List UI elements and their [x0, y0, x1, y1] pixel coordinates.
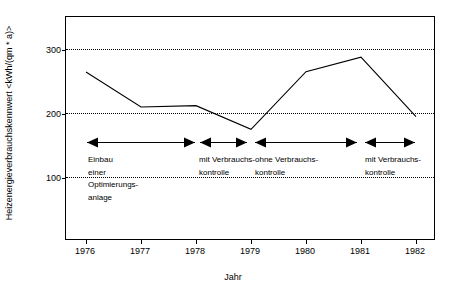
phase-4-label-line-2: kontrolle — [365, 167, 421, 180]
phase-4-label-line-1: mit Verbrauchs- — [365, 154, 421, 167]
y-tick-label-300: 300 — [46, 45, 61, 55]
phase-4-label: mit Verbrauchs- kontrolle — [365, 154, 421, 179]
x-tick-label-1978: 1978 — [185, 246, 205, 256]
y-axis-title: Heizenergieverbrauchskennwert <kWh/(qm *… — [2, 0, 16, 248]
plot-area: 100 200 300 — [65, 16, 435, 240]
y-tick-label-100: 100 — [46, 173, 61, 183]
phase-2-label-line-2: kontrolle — [199, 167, 255, 180]
y-tick-label-200: 200 — [46, 109, 61, 119]
phase-3-arrow — [254, 137, 358, 148]
x-tick-label-1982: 1982 — [405, 246, 425, 256]
phase-2-label: mit Verbrauchs- kontrolle — [199, 154, 255, 179]
x-axis-title: Jahr — [0, 272, 466, 282]
phase-4-arrow — [364, 137, 416, 148]
x-tick-label-1979: 1979 — [240, 246, 260, 256]
phase-1-label-line-3: Optimierungs- — [88, 179, 138, 192]
x-tick-label-1981: 1981 — [350, 246, 370, 256]
phase-3-label-line-2: kontrolle — [255, 167, 318, 180]
phase-2-arrow — [199, 137, 248, 148]
phase-2-label-line-1: mit Verbrauchs- — [199, 154, 255, 167]
phase-1-arrow — [86, 137, 196, 148]
phase-1-label: Einbau einer Optimierungs- anlage — [88, 154, 138, 204]
chart-container: Heizenergieverbrauchskennwert <kWh/(qm *… — [0, 0, 466, 292]
phase-1-label-line-4: anlage — [88, 192, 138, 205]
x-tick-label-1980: 1980 — [295, 246, 315, 256]
x-tick-label-1976: 1976 — [75, 246, 95, 256]
phase-1-label-line-2: einer — [88, 167, 138, 180]
data-series-line — [66, 17, 436, 241]
phase-3-label-line-1: ohne Verbrauchs- — [255, 154, 318, 167]
phase-3-label: ohne Verbrauchs- kontrolle — [255, 154, 318, 179]
phase-1-label-line-1: Einbau — [88, 154, 138, 167]
x-tick-label-1977: 1977 — [130, 246, 150, 256]
